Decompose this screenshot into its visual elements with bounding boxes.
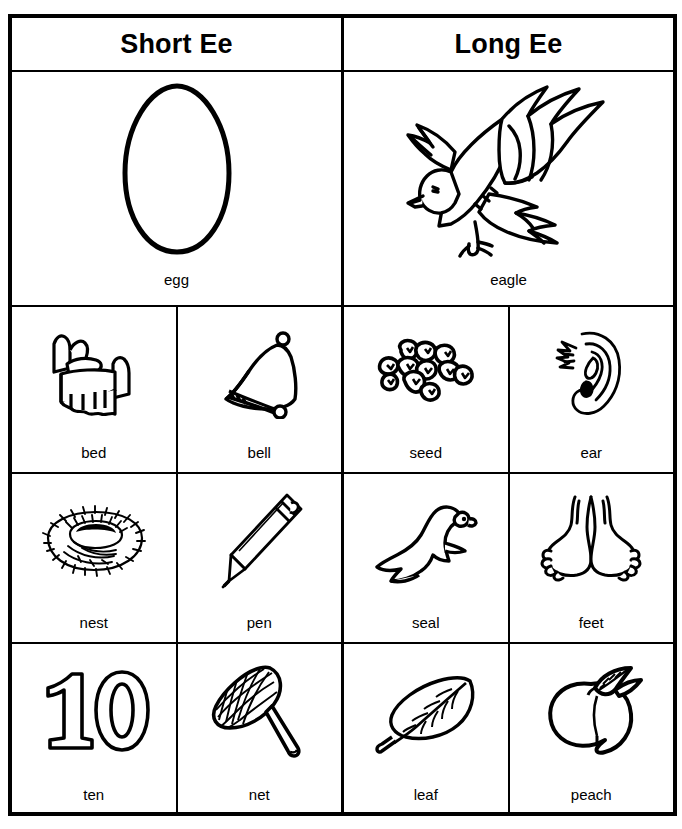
- cell-pen: pen: [178, 474, 345, 642]
- cell-label: seed: [344, 438, 508, 472]
- header-row: Short Ee Long Ee: [12, 18, 673, 70]
- cell-leaf: leaf: [344, 644, 510, 814]
- cell-seed: seed: [344, 307, 510, 472]
- header-cell-long-ee: Long Ee: [344, 18, 673, 70]
- cell-ear: ear: [510, 307, 674, 472]
- cell-seal: seal: [344, 474, 510, 642]
- worksheet-table: Short Ee Long Ee egg: [8, 14, 677, 816]
- cell-nest: nest: [12, 474, 178, 642]
- bell-icon: [178, 307, 342, 438]
- seeds-icon: [344, 307, 508, 438]
- feet-icon: [510, 474, 674, 608]
- cell-label: leaf: [344, 780, 508, 814]
- cell-label: nest: [12, 608, 176, 642]
- cell-label: feet: [510, 608, 674, 642]
- bed-icon: [12, 307, 176, 438]
- featured-label-eagle: eagle: [344, 265, 673, 305]
- table-row: ten: [12, 642, 673, 814]
- cell-label: ten: [12, 780, 176, 814]
- cell-bed: bed: [12, 307, 178, 472]
- featured-label-egg: egg: [12, 265, 341, 305]
- eagle-flying-icon: [344, 72, 673, 265]
- cell-bell: bell: [178, 307, 345, 472]
- pen-icon: [178, 474, 342, 608]
- leaf-icon: [344, 644, 508, 780]
- cell-feet: feet: [510, 474, 674, 642]
- cell-label: bed: [12, 438, 176, 472]
- page-title-short: Short Ee: [120, 29, 233, 60]
- featured-cell-egg: egg: [12, 72, 344, 305]
- featured-cell-eagle: eagle: [344, 72, 673, 305]
- nest-icon: [12, 474, 176, 608]
- table-row: nest: [12, 472, 673, 642]
- net-icon: [178, 644, 342, 780]
- cell-label: ear: [510, 438, 674, 472]
- table-row: bed bell: [12, 305, 673, 472]
- cell-peach: peach: [510, 644, 674, 814]
- cell-label: bell: [178, 438, 342, 472]
- cell-ten: ten: [12, 644, 178, 814]
- header-cell-short-ee: Short Ee: [12, 18, 344, 70]
- egg-outline-icon: [12, 72, 341, 265]
- ear-icon: [510, 307, 674, 438]
- cell-net: net: [178, 644, 345, 814]
- featured-row: egg: [12, 70, 673, 305]
- cell-label: seal: [344, 608, 508, 642]
- cell-label: net: [178, 780, 342, 814]
- number-ten-icon: [12, 644, 176, 780]
- page-title-long: Long Ee: [455, 29, 563, 60]
- cell-label: peach: [510, 780, 674, 814]
- seal-icon: [344, 474, 508, 608]
- peach-icon: [510, 644, 674, 780]
- cell-label: pen: [178, 608, 342, 642]
